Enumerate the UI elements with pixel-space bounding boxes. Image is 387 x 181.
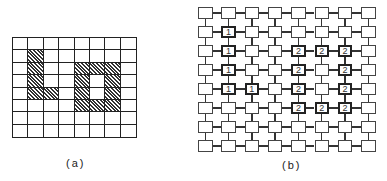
labeled-processor-node: 2 <box>291 83 306 95</box>
pixel-cell <box>75 112 90 124</box>
mesh-link-vertical <box>228 114 229 121</box>
processor-node <box>291 121 306 133</box>
mesh-link-vertical <box>205 133 206 140</box>
mesh-link-vertical <box>298 114 299 121</box>
pixel-cell <box>75 38 90 50</box>
mesh-link-horizontal <box>236 88 245 89</box>
binary-image-grid <box>12 37 137 138</box>
mesh-link-horizontal <box>259 31 268 32</box>
mesh-link-horizontal <box>259 88 268 89</box>
mesh-link-horizontal <box>282 126 291 127</box>
mesh-link-vertical <box>228 57 229 64</box>
pixel-cell <box>90 125 105 137</box>
pixel-cell <box>90 75 105 87</box>
mesh-link-vertical <box>251 57 252 64</box>
pixel-cell <box>59 88 74 100</box>
labeled-processor-node: 2 <box>315 102 330 114</box>
processor-node <box>291 140 306 152</box>
pixel-cell <box>13 63 28 75</box>
pixel-cell <box>28 125 43 137</box>
mesh-link-horizontal <box>236 50 245 51</box>
mesh-link-horizontal <box>213 126 222 127</box>
pixel-cell <box>44 50 59 62</box>
pixel-cell <box>121 100 136 112</box>
mesh-link-horizontal <box>236 145 245 146</box>
shaded-pixel-cell <box>28 63 43 75</box>
processor-node <box>221 121 236 133</box>
mesh-link-vertical <box>344 57 345 64</box>
shaded-pixel-cell <box>28 75 43 87</box>
pixel-cell <box>28 112 43 124</box>
processor-node <box>361 140 376 152</box>
mesh-link-horizontal <box>329 88 338 89</box>
pixel-cell <box>121 38 136 50</box>
processor-node <box>245 7 260 19</box>
pixel-cell <box>90 50 105 62</box>
mesh-link-horizontal <box>259 145 268 146</box>
processor-node <box>245 64 260 76</box>
pixel-cell <box>121 112 136 124</box>
mesh-link-vertical <box>298 57 299 64</box>
processor-node <box>198 140 213 152</box>
processor-node <box>361 102 376 114</box>
mesh-link-vertical <box>298 38 299 45</box>
mesh-link-vertical <box>251 76 252 83</box>
mesh-link-vertical <box>368 133 369 140</box>
pixel-cell <box>13 88 28 100</box>
pixel-cell <box>105 125 120 137</box>
processor-node <box>221 7 236 19</box>
labeled-processor-node: 2 <box>291 102 306 114</box>
mesh-link-horizontal <box>236 107 245 108</box>
mesh-link-horizontal <box>213 88 222 89</box>
mesh-link-vertical <box>368 76 369 83</box>
pixel-cell <box>28 38 43 50</box>
pixel-cell <box>105 112 120 124</box>
mesh-link-vertical <box>251 95 252 102</box>
pixel-cell <box>59 63 74 75</box>
pixel-cell <box>59 38 74 50</box>
processor-node <box>268 45 283 57</box>
pixel-cell <box>105 38 120 50</box>
mesh-link-vertical <box>274 38 275 45</box>
mesh-link-horizontal <box>259 126 268 127</box>
mesh-link-horizontal <box>329 31 338 32</box>
mesh-link-vertical <box>368 38 369 45</box>
processor-node <box>198 45 213 57</box>
processor-node <box>338 7 353 19</box>
processor-node <box>198 7 213 19</box>
mesh-link-horizontal <box>236 69 245 70</box>
mesh-link-vertical <box>298 133 299 140</box>
processor-node <box>338 26 353 38</box>
mesh-link-vertical <box>321 114 322 121</box>
mesh-link-horizontal <box>259 69 268 70</box>
mesh-link-vertical <box>321 95 322 102</box>
labeled-processor-node: 1 <box>221 83 236 95</box>
mesh-link-horizontal <box>329 12 338 13</box>
mesh-link-vertical <box>344 114 345 121</box>
processor-node <box>361 64 376 76</box>
processor-node <box>268 102 283 114</box>
processor-node <box>315 83 330 95</box>
mesh-link-horizontal <box>352 107 361 108</box>
shaded-pixel-cell <box>75 100 90 112</box>
mesh-link-vertical <box>321 38 322 45</box>
processor-node <box>361 7 376 19</box>
processor-node <box>268 83 283 95</box>
mesh-link-horizontal <box>329 126 338 127</box>
mesh-link-horizontal <box>282 88 291 89</box>
processor-node <box>361 121 376 133</box>
mesh-link-horizontal <box>352 50 361 51</box>
mesh-link-vertical <box>344 19 345 26</box>
pixel-cell <box>59 112 74 124</box>
mesh-link-horizontal <box>329 107 338 108</box>
pixel-cell <box>13 100 28 112</box>
mesh-link-horizontal <box>352 145 361 146</box>
mesh-link-vertical <box>205 114 206 121</box>
mesh-link-horizontal <box>329 50 338 51</box>
mesh-link-vertical <box>344 76 345 83</box>
mesh-link-horizontal <box>352 69 361 70</box>
labeled-processor-node: 2 <box>338 102 353 114</box>
pixel-cell <box>44 38 59 50</box>
mesh-link-vertical <box>368 95 369 102</box>
shaded-pixel-cell <box>75 75 90 87</box>
